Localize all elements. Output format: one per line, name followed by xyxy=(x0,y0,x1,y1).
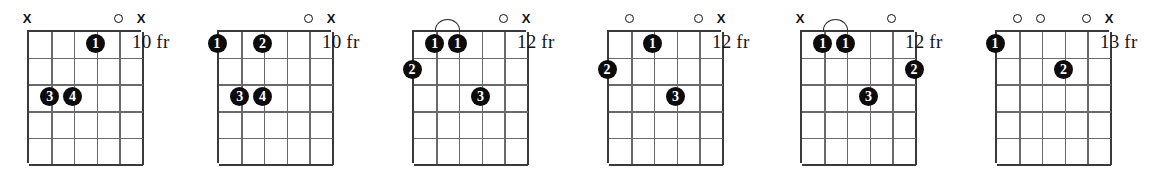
finger-dot: 1 xyxy=(986,34,1005,53)
finger-dot: 2 xyxy=(403,60,422,79)
open-string-ring xyxy=(1036,14,1045,23)
finger-dot: 2 xyxy=(253,34,272,53)
string-line xyxy=(309,32,311,165)
open-string-ring xyxy=(499,14,508,23)
fret-line xyxy=(997,111,1111,113)
muted-string-icon: X xyxy=(134,11,148,27)
fretboard-grid xyxy=(607,30,721,163)
fret-line xyxy=(219,138,333,140)
finger-dot: 4 xyxy=(63,87,82,106)
open-string-ring xyxy=(1013,14,1022,23)
fret-line xyxy=(219,58,333,60)
string-marker-row: XX xyxy=(27,11,141,27)
fret-line xyxy=(609,138,723,140)
open-string-ring xyxy=(694,14,703,23)
fret-line xyxy=(609,58,723,60)
muted-string-icon: X xyxy=(1102,11,1116,27)
open-string-icon xyxy=(1011,11,1025,27)
fretboard-grid xyxy=(995,30,1109,163)
muted-string-icon: X xyxy=(714,11,728,27)
fret-position-label: 12 fr xyxy=(712,31,749,53)
fret-line xyxy=(414,164,528,166)
string-line xyxy=(1065,32,1067,165)
fret-line xyxy=(29,58,143,60)
fret-line xyxy=(414,84,528,86)
finger-dot: 1 xyxy=(643,34,662,53)
fret-line xyxy=(802,164,916,166)
fret-position-label: 13 fr xyxy=(1100,31,1137,53)
open-string-icon xyxy=(691,11,705,27)
chord-diagram: X123410 fr xyxy=(217,0,421,173)
open-string-ring xyxy=(114,14,123,23)
finger-dot: 2 xyxy=(905,60,924,79)
finger-dot: 1 xyxy=(836,34,855,53)
finger-dot: 3 xyxy=(859,87,878,106)
fret-line xyxy=(219,111,333,113)
fret-line xyxy=(802,58,916,60)
fret-line xyxy=(219,84,333,86)
fret-line xyxy=(997,138,1111,140)
open-string-ring xyxy=(1082,14,1091,23)
open-string-icon xyxy=(884,11,898,27)
string-line xyxy=(1019,32,1021,165)
muted-string-icon: X xyxy=(20,11,34,27)
string-line xyxy=(699,32,701,165)
fret-position-label: 10 fr xyxy=(322,31,359,53)
chord-diagram: X112312 fr xyxy=(412,0,616,173)
muted-string-icon: X xyxy=(793,11,807,27)
string-line xyxy=(631,32,633,165)
fret-line xyxy=(29,138,143,140)
finger-dot: 1 xyxy=(448,34,467,53)
string-marker-row: X xyxy=(217,11,331,27)
fret-line xyxy=(802,84,916,86)
fret-position-label: 10 fr xyxy=(132,31,169,53)
fret-line xyxy=(609,111,723,113)
string-line xyxy=(892,32,894,165)
string-marker-row: X xyxy=(412,11,526,27)
finger-dot: 3 xyxy=(666,87,685,106)
muted-string-icon: X xyxy=(519,11,533,27)
finger-dot: 1 xyxy=(86,34,105,53)
fret-position-label: 12 fr xyxy=(905,31,942,53)
fret-line xyxy=(414,111,528,113)
open-string-icon xyxy=(496,11,510,27)
fret-position-label: 12 fr xyxy=(517,31,554,53)
finger-dot: 1 xyxy=(208,34,227,53)
chord-diagram: X1213 fr xyxy=(995,0,1160,173)
finger-dot: 1 xyxy=(425,34,444,53)
finger-dot: 2 xyxy=(598,60,617,79)
open-string-icon xyxy=(1079,11,1093,27)
fret-line xyxy=(802,111,916,113)
fret-line xyxy=(802,138,916,140)
barre-arc xyxy=(435,19,460,32)
fret-line xyxy=(29,164,143,166)
open-string-icon xyxy=(301,11,315,27)
fret-line xyxy=(609,164,723,166)
fret-line xyxy=(219,164,333,166)
muted-string-icon: X xyxy=(324,11,338,27)
fret-line xyxy=(29,84,143,86)
finger-dot: 3 xyxy=(471,87,490,106)
finger-dot: 1 xyxy=(813,34,832,53)
fret-line xyxy=(414,58,528,60)
string-line xyxy=(1087,32,1089,165)
string-line xyxy=(1042,32,1044,165)
fret-line xyxy=(997,84,1111,86)
fret-line xyxy=(609,84,723,86)
open-string-ring xyxy=(304,14,313,23)
fret-line xyxy=(997,164,1111,166)
string-line xyxy=(504,32,506,165)
string-line xyxy=(119,32,121,165)
fret-line xyxy=(414,138,528,140)
string-marker-row: X xyxy=(995,11,1109,27)
chord-diagram: X112312 fr xyxy=(800,0,1004,173)
open-string-ring xyxy=(887,14,896,23)
open-string-icon xyxy=(1034,11,1048,27)
fret-line xyxy=(29,111,143,113)
barre-arc xyxy=(823,19,848,32)
open-string-ring xyxy=(625,14,634,23)
fret-line xyxy=(997,58,1111,60)
chord-diagram: X12312 fr xyxy=(607,0,811,173)
finger-dot: 4 xyxy=(253,87,272,106)
open-string-icon xyxy=(623,11,637,27)
